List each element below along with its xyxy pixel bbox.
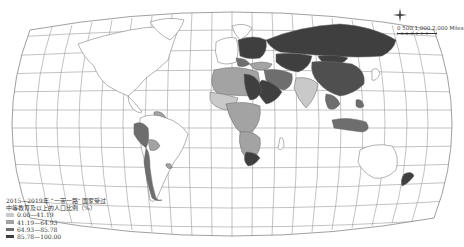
legend-label: 0.00—41.19 (17, 211, 54, 218)
north-arrow-icon (393, 8, 407, 22)
eastern-europe (238, 37, 266, 59)
turkey (250, 62, 272, 70)
philippines (356, 100, 364, 108)
russia (266, 24, 396, 57)
legend-label: 41.19—64.93 (17, 219, 57, 226)
japan (372, 69, 380, 81)
south-africa (244, 152, 260, 166)
india (294, 78, 318, 108)
legend-swatch (6, 220, 14, 224)
legend-item: 85.78—100.00 (6, 233, 107, 240)
legend-label: 64.93—85.78 (17, 226, 57, 233)
legend-title-line2: 中等教育及以上的人口比例（%） (6, 204, 107, 211)
australia (358, 145, 397, 179)
peru (134, 123, 149, 148)
legend-title-line1: 2015—2019年 “一带一路” 国家受过 (6, 197, 107, 204)
western-europe (215, 38, 238, 65)
north-america (78, 27, 178, 96)
legend-swatch (6, 228, 14, 232)
central-asia (276, 53, 312, 72)
legend-item: 41.19—64.93 (6, 219, 107, 226)
legend-swatch (6, 235, 14, 239)
map-legend: 2015—2019年 “一带一路” 国家受过 中等教育及以上的人口比例（%） 0… (6, 197, 107, 240)
southeast-asia (325, 94, 340, 109)
scale-label: 0 500 1,000 2,000 Miles (397, 25, 464, 31)
legend-swatch (6, 213, 14, 217)
central-africa (226, 102, 260, 133)
scale-bar (397, 32, 437, 35)
legend-item: 0.00—41.19 (6, 211, 107, 218)
legend-label: 85.78—100.00 (17, 233, 61, 240)
legend-item: 64.93—85.78 (6, 226, 107, 233)
balkans (236, 58, 250, 67)
